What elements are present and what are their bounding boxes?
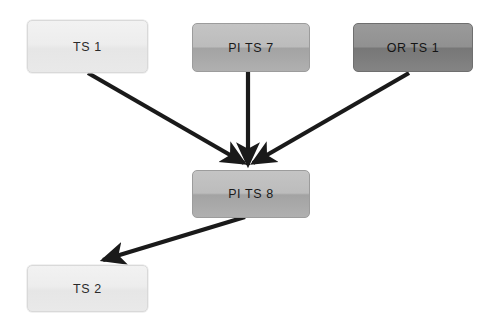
node-ts2-label: TS 2 (73, 282, 102, 296)
diagram-canvas: TS 1 PI TS 7 OR TS 1 PI TS 8 TS 2 (0, 0, 497, 331)
node-pits7[interactable]: PI TS 7 (192, 23, 310, 72)
node-pits8-label: PI TS 8 (228, 187, 274, 201)
node-pits7-label: PI TS 7 (228, 41, 274, 55)
node-orts1[interactable]: OR TS 1 (353, 23, 473, 72)
edge-orts1-to-pits8 (253, 73, 409, 163)
node-ts1[interactable]: TS 1 (27, 20, 148, 73)
node-pits8[interactable]: PI TS 8 (192, 170, 310, 218)
node-ts1-label: TS 1 (73, 40, 102, 54)
edge-ts1-to-pits8 (88, 73, 244, 163)
node-ts2[interactable]: TS 2 (27, 265, 148, 312)
edge-pits8-to-ts2 (103, 217, 245, 260)
node-orts1-label: OR TS 1 (387, 41, 440, 55)
